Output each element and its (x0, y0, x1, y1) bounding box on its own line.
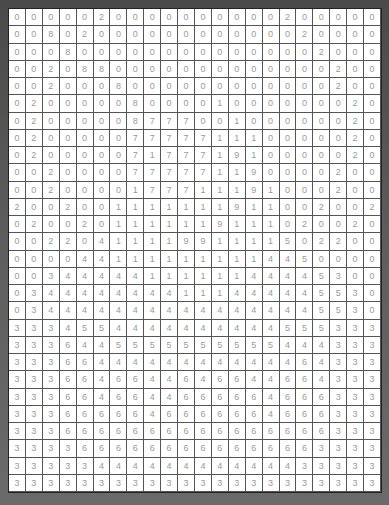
grid-cell[interactable]: 3 (60, 475, 77, 492)
grid-cell[interactable]: 0 (94, 78, 111, 95)
grid-cell[interactable]: 2 (26, 95, 43, 112)
grid-cell[interactable]: 0 (347, 9, 364, 26)
grid-cell[interactable]: 6 (212, 389, 229, 406)
grid-cell[interactable]: 4 (161, 354, 178, 371)
grid-cell[interactable]: 6 (195, 406, 212, 423)
grid-cell[interactable]: 0 (9, 233, 26, 250)
grid-cell[interactable]: 7 (144, 182, 161, 199)
grid-cell[interactable]: 7 (161, 147, 178, 164)
grid-cell[interactable]: 0 (212, 113, 229, 130)
grid-cell[interactable]: 0 (178, 61, 195, 78)
grid-cell[interactable]: 0 (9, 130, 26, 147)
grid-cell[interactable]: 6 (178, 406, 195, 423)
grid-cell[interactable]: 4 (313, 337, 330, 354)
grid-cell[interactable]: 4 (212, 458, 229, 475)
grid-cell[interactable]: 4 (246, 268, 263, 285)
grid-cell[interactable]: 0 (60, 216, 77, 233)
grid-cell[interactable]: 6 (127, 406, 144, 423)
grid-cell[interactable]: 0 (144, 26, 161, 43)
grid-cell[interactable]: 5 (313, 285, 330, 302)
grid-cell[interactable]: 0 (110, 44, 127, 61)
grid-cell[interactable]: 0 (364, 302, 381, 319)
grid-cell[interactable]: 0 (9, 9, 26, 26)
grid-cell[interactable]: 5 (110, 337, 127, 354)
grid-cell[interactable]: 7 (178, 113, 195, 130)
grid-cell[interactable]: 0 (195, 113, 212, 130)
grid-cell[interactable]: 3 (364, 475, 381, 492)
grid-cell[interactable]: 4 (77, 302, 94, 319)
grid-cell[interactable]: 0 (9, 251, 26, 268)
grid-cell[interactable]: 2 (9, 199, 26, 216)
grid-cell[interactable]: 0 (60, 147, 77, 164)
grid-cell[interactable]: 4 (229, 458, 246, 475)
grid-cell[interactable]: 2 (347, 216, 364, 233)
grid-cell[interactable]: 0 (43, 147, 60, 164)
grid-cell[interactable]: 0 (9, 285, 26, 302)
grid-cell[interactable]: 4 (110, 320, 127, 337)
grid-cell[interactable]: 0 (313, 113, 330, 130)
grid-cell[interactable]: 0 (330, 113, 347, 130)
grid-cell[interactable]: 3 (26, 302, 43, 319)
grid-cell[interactable]: 0 (9, 147, 26, 164)
grid-cell[interactable]: 6 (246, 406, 263, 423)
grid-cell[interactable]: 3 (110, 475, 127, 492)
grid-cell[interactable]: 5 (178, 337, 195, 354)
grid-cell[interactable]: 3 (347, 285, 364, 302)
grid-cell[interactable]: 4 (94, 251, 111, 268)
grid-cell[interactable]: 5 (280, 320, 297, 337)
grid-cell[interactable]: 0 (296, 199, 313, 216)
grid-cell[interactable]: 6 (246, 389, 263, 406)
grid-cell[interactable]: 0 (347, 182, 364, 199)
grid-cell[interactable]: 3 (364, 371, 381, 388)
grid-cell[interactable]: 0 (364, 251, 381, 268)
grid-cell[interactable]: 6 (296, 371, 313, 388)
grid-cell[interactable]: 4 (229, 354, 246, 371)
grid-cell[interactable]: 3 (364, 354, 381, 371)
grid-cell[interactable]: 6 (127, 423, 144, 440)
grid-cell[interactable]: 7 (178, 130, 195, 147)
grid-cell[interactable]: 6 (94, 423, 111, 440)
grid-cell[interactable]: 7 (178, 182, 195, 199)
grid-cell[interactable]: 6 (94, 440, 111, 457)
grid-cell[interactable]: 6 (313, 389, 330, 406)
grid-cell[interactable]: 0 (212, 26, 229, 43)
grid-cell[interactable]: 0 (296, 113, 313, 130)
grid-cell[interactable]: 4 (77, 268, 94, 285)
grid-cell[interactable]: 0 (178, 26, 195, 43)
grid-cell[interactable]: 3 (330, 423, 347, 440)
grid-cell[interactable]: 3 (161, 475, 178, 492)
grid-cell[interactable]: 0 (178, 78, 195, 95)
grid-cell[interactable]: 1 (212, 130, 229, 147)
grid-cell[interactable]: 4 (94, 302, 111, 319)
grid-cell[interactable]: 4 (212, 302, 229, 319)
grid-cell[interactable]: 4 (144, 320, 161, 337)
grid-cell[interactable]: 0 (26, 26, 43, 43)
grid-cell[interactable]: 0 (94, 130, 111, 147)
grid-cell[interactable]: 0 (313, 9, 330, 26)
grid-cell[interactable]: 7 (161, 113, 178, 130)
grid-cell[interactable]: 0 (364, 61, 381, 78)
grid-cell[interactable]: 0 (60, 182, 77, 199)
grid-cell[interactable]: 3 (43, 371, 60, 388)
grid-cell[interactable]: 3 (347, 423, 364, 440)
grid-cell[interactable]: 3 (9, 320, 26, 337)
grid-cell[interactable]: 3 (43, 458, 60, 475)
grid-cell[interactable]: 7 (144, 113, 161, 130)
grid-cell[interactable]: 2 (26, 216, 43, 233)
grid-cell[interactable]: 3 (43, 406, 60, 423)
grid-cell[interactable]: 0 (77, 78, 94, 95)
grid-cell[interactable]: 6 (161, 406, 178, 423)
grid-cell[interactable]: 4 (127, 354, 144, 371)
grid-cell[interactable]: 3 (43, 337, 60, 354)
grid-cell[interactable]: 0 (330, 216, 347, 233)
grid-cell[interactable]: 0 (161, 95, 178, 112)
grid-cell[interactable]: 5 (296, 251, 313, 268)
grid-cell[interactable]: 0 (60, 95, 77, 112)
grid-cell[interactable]: 0 (161, 44, 178, 61)
grid-cell[interactable]: 1 (212, 164, 229, 181)
grid-cell[interactable]: 0 (364, 130, 381, 147)
grid-cell[interactable]: 4 (144, 285, 161, 302)
grid-cell[interactable]: 5 (94, 320, 111, 337)
grid-cell[interactable]: 6 (60, 423, 77, 440)
grid-cell[interactable]: 0 (26, 164, 43, 181)
